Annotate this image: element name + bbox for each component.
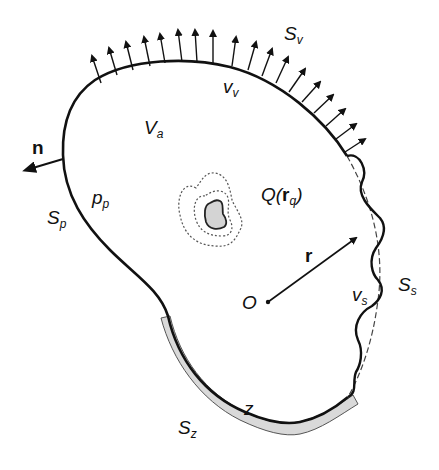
label-n: n [32, 138, 44, 157]
label-origin-o: O [242, 293, 257, 312]
label-v-v: vv [223, 77, 239, 99]
vibrating-surface-wavy [347, 155, 384, 397]
domain-boundary [63, 61, 348, 423]
normal-vector-arrow [26, 159, 63, 170]
label-s-s: Ss [398, 275, 417, 297]
source-region [179, 173, 242, 246]
label-v-s: vs [352, 285, 368, 307]
label-s-p: Sp [47, 208, 66, 230]
label-p-p: pp [92, 188, 109, 210]
diagram-canvas [0, 0, 439, 470]
label-source-q: Q(rq) [261, 185, 303, 207]
label-v-a: Va [144, 118, 163, 140]
label-z: z [244, 399, 254, 418]
label-r: r [305, 246, 312, 265]
label-s-z: Sz [178, 418, 197, 440]
label-s-v: Sv [284, 24, 303, 46]
origin-point [266, 300, 270, 304]
